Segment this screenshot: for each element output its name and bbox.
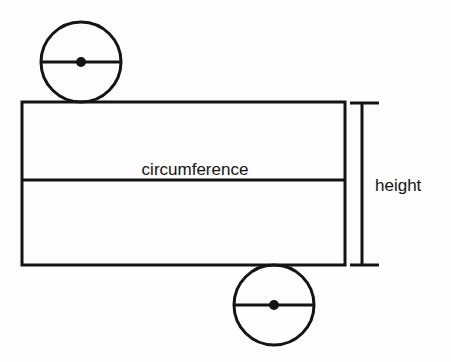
bottom-circle-center-dot <box>269 300 279 310</box>
height-label: height <box>375 176 422 195</box>
circumference-label: circumference <box>142 160 249 179</box>
cylinder-net-figure: circumference height <box>0 0 451 362</box>
top-circle-center-dot <box>76 57 86 67</box>
diagram-canvas: circumference height <box>0 0 451 362</box>
